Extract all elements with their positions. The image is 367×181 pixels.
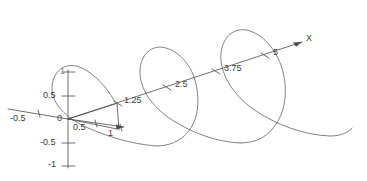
- y-tick-label-0-5: 0.5: [73, 123, 86, 132]
- x-tick-label-5: 5: [273, 48, 278, 57]
- axis-frame: [8, 42, 302, 168]
- z-tick-label-0: 0: [57, 114, 62, 123]
- x-tick-label-2-5: 2.5: [175, 80, 188, 89]
- x-tick-label-1-25: 1.25: [124, 96, 142, 105]
- y-tick-label-neg-0-5: -0.5: [10, 114, 26, 123]
- x-axis-arrowhead: [293, 42, 302, 47]
- z-tick-label-neg-1: -1: [48, 160, 56, 169]
- z-tick-label-0-5: 0.5: [43, 91, 56, 100]
- y-tick-neg-0-5: [38, 110, 40, 117]
- plot-canvas: 1.25 2.5 3.75 5 X -0.5 0.5 1 1 0.5 0 -0.…: [0, 0, 367, 181]
- x-axis-label: X: [306, 34, 312, 43]
- x-tick-label-3-75: 3.75: [224, 64, 242, 73]
- helix-curve: [52, 30, 352, 146]
- z-tick-label-1: 1: [60, 67, 65, 76]
- y-tick-label-1: 1: [108, 129, 113, 138]
- z-tick-label-neg-0-5: -0.5: [40, 138, 56, 147]
- origin-leader-upper: [68, 104, 115, 119]
- helix-segment-3: [221, 30, 352, 143]
- helix-segment-2: [140, 47, 240, 146]
